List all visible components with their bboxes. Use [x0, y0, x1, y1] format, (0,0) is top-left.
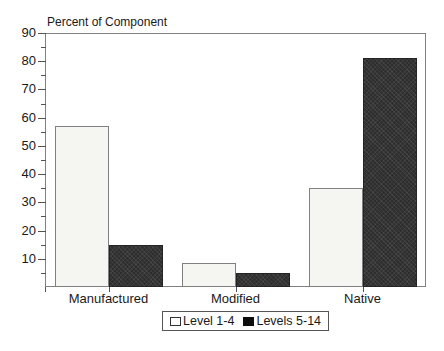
legend-label-levels-5-14: Levels 5-14: [256, 314, 321, 328]
chart-title: Percent of Component: [47, 15, 167, 29]
y-axis-major-tick: [38, 202, 46, 203]
x-category-label-modified: Modified: [172, 291, 299, 306]
y-tick-label: 80: [6, 53, 36, 69]
y-tick-label: 50: [6, 138, 36, 154]
bar-modified-levels-5-14: [236, 273, 290, 287]
y-axis-major-tick: [38, 33, 46, 34]
legend: Level 1-4 Levels 5-14: [162, 311, 329, 331]
y-tick-label: 70: [6, 81, 36, 97]
legend-swatch-light-icon: [170, 317, 181, 326]
y-tick-label: 90: [6, 25, 36, 41]
y-axis-major-tick: [38, 231, 46, 232]
y-tick-label: 20: [6, 223, 36, 239]
bar-manufactured-levels-5-14: [109, 245, 163, 287]
y-axis-major-tick: [38, 259, 46, 260]
y-axis-minor-tick: [41, 47, 46, 48]
bar-native-levels-5-14: [363, 58, 417, 287]
y-tick-label: 40: [6, 166, 36, 182]
y-axis-minor-tick: [41, 273, 46, 274]
y-axis-minor-tick: [41, 104, 46, 105]
bar-chart: Percent of Component Level 1-4 Levels 5-…: [0, 0, 444, 351]
bar-modified-level-1-4: [182, 263, 236, 287]
x-category-label-manufactured: Manufactured: [45, 291, 172, 306]
y-axis-minor-tick: [41, 245, 46, 246]
legend-entry-level-1-4: Level 1-4: [170, 314, 234, 328]
bar-native-level-1-4: [309, 188, 363, 287]
y-tick-label: 30: [6, 194, 36, 210]
y-axis-minor-tick: [41, 188, 46, 189]
y-axis-minor-tick: [41, 132, 46, 133]
y-tick-label: 10: [6, 251, 36, 267]
y-axis-minor-tick: [41, 216, 46, 217]
y-axis-minor-tick: [41, 75, 46, 76]
legend-label-level-1-4: Level 1-4: [183, 314, 234, 328]
y-axis-minor-tick: [41, 160, 46, 161]
y-axis-major-tick: [38, 118, 46, 119]
bar-manufactured-level-1-4: [55, 126, 109, 287]
y-tick-label: 60: [6, 110, 36, 126]
legend-swatch-dark-icon: [243, 317, 254, 326]
y-axis-major-tick: [38, 61, 46, 62]
y-axis-major-tick: [38, 146, 46, 147]
legend-entry-levels-5-14: Levels 5-14: [243, 314, 321, 328]
x-category-label-native: Native: [299, 291, 426, 306]
y-axis-major-tick: [38, 89, 46, 90]
y-axis-major-tick: [38, 174, 46, 175]
